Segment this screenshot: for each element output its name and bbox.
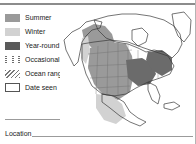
date-seen-empty-box-icon[interactable] — [5, 83, 20, 92]
legend-item-label: Occasional — [25, 56, 60, 64]
legend-item-year-round: Year-round — [5, 39, 61, 52]
occasional-dotted-swatch-icon — [5, 56, 20, 64]
legend-item-label: Summer — [25, 14, 51, 22]
legend-item-winter: Winter — [5, 25, 61, 38]
location-label: Location — [5, 130, 31, 138]
top-divider-rule — [0, 3, 196, 5]
legend-item-occasional: Occasional — [5, 53, 61, 66]
ocean-range-hatch-swatch-icon — [5, 70, 20, 78]
legend-item-ocean-range: Ocean range — [5, 67, 61, 80]
summer-swatch-icon — [5, 14, 20, 22]
north-america-range-map — [60, 8, 193, 127]
right-edge-rule — [195, 0, 196, 144]
winter-swatch-icon — [5, 28, 20, 36]
legend-item-label: Winter — [25, 28, 45, 36]
legend-bottom-divider — [5, 119, 68, 120]
legend-item-summer: Summer — [5, 11, 61, 24]
legend-item-label: Year-round — [25, 42, 59, 50]
legend-item-label: Date seen — [25, 84, 57, 92]
location-write-in-line[interactable] — [32, 136, 193, 137]
range-map-svg — [60, 8, 193, 127]
range-map-page: Summer Winter Year-round Occasional Ocea… — [0, 0, 196, 144]
legend-item-date-seen: Date seen — [5, 81, 61, 94]
location-entry-row: Location — [5, 130, 193, 138]
map-legend: Summer Winter Year-round Occasional Ocea… — [5, 11, 61, 95]
year-round-swatch-icon — [5, 42, 20, 50]
